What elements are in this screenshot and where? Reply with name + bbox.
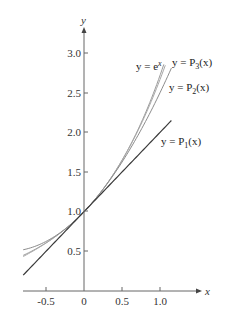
x-tick-label: 0 bbox=[81, 295, 87, 307]
x-axis-arrow-icon bbox=[196, 289, 202, 294]
y-tick-label: 1.0 bbox=[67, 205, 81, 217]
x-tick-label: -0.5 bbox=[37, 295, 55, 307]
y-tick-label: 3.0 bbox=[67, 47, 81, 59]
y-tick-label: 2.0 bbox=[67, 126, 81, 138]
y-tick-label: 0.5 bbox=[67, 245, 81, 257]
label-p1: y = P1(x) bbox=[161, 135, 201, 150]
y-axis-arrow-icon bbox=[82, 27, 87, 33]
curve-p2 bbox=[23, 68, 171, 250]
x-axis-label: x bbox=[204, 285, 210, 297]
taylor-approximation-chart: x y -0.5 0 0.5 1.0 0.5 1.0 1.5 2.0 2.5 3… bbox=[0, 0, 226, 316]
curve-p3 bbox=[23, 65, 165, 256]
x-tick-label: 1.0 bbox=[153, 295, 167, 307]
y-axis-label: y bbox=[80, 14, 86, 26]
label-exp: y = ex bbox=[136, 59, 162, 72]
x-ticks: -0.5 0 0.5 1.0 bbox=[37, 287, 167, 307]
label-p2: y = P2(x) bbox=[169, 81, 209, 96]
y-tick-label: 2.5 bbox=[67, 87, 81, 99]
x-tick-label: 0.5 bbox=[115, 295, 129, 307]
curve-p1 bbox=[23, 121, 171, 276]
y-tick-label: 1.5 bbox=[67, 166, 81, 178]
curves bbox=[23, 64, 171, 275]
label-p3: y = P3(x) bbox=[172, 56, 212, 71]
curve-exp bbox=[23, 64, 164, 255]
